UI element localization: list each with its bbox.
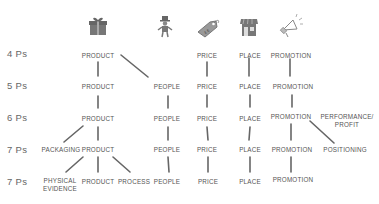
node-people: PEOPLE (154, 146, 180, 154)
node-promotion: PROMOTION (273, 176, 314, 184)
node-place: PLACE (239, 115, 261, 123)
row-label-4ps: 4 Ps (7, 48, 27, 59)
node-place: PLACE (239, 178, 261, 186)
node-product: PRODUCT (82, 115, 115, 123)
node-price: PRICE (197, 83, 217, 91)
node-price: PRICE (197, 115, 217, 123)
node-promotion: PROMOTION (273, 83, 314, 91)
node-product: PRODUCT (82, 52, 115, 60)
row-label-5ps: 5 Ps (7, 80, 27, 91)
node-price: PRICE (198, 178, 218, 186)
node-promotion: PROMOTION (271, 113, 312, 121)
node-price: PRICE (197, 146, 217, 154)
node-people: PEOPLE (154, 115, 180, 123)
node-place: PLACE (239, 52, 261, 60)
row-label-7ps-b: 7 Ps (7, 176, 27, 187)
node-physical-evidence: PHYSICAL EVIDENCE (43, 177, 77, 192)
node-process: PROCESS (118, 178, 150, 186)
gift-box-icon (88, 16, 108, 40)
node-physical-line1: PHYSICAL (43, 177, 77, 185)
node-packaging: PACKAGING (42, 146, 81, 154)
node-place: PLACE (239, 146, 261, 154)
megaphone-icon (279, 12, 305, 42)
node-performance-line1: PERFORMANCE/ (320, 113, 373, 121)
connector-lines (0, 0, 379, 204)
marketing-mix-diagram: £ € 4 Ps 5 Ps 6 Ps 7 Ps 7 Ps PRODUCT PRI… (0, 0, 379, 204)
node-product: PRODUCT (82, 83, 115, 91)
node-performance-line2: PROFIT (320, 121, 373, 129)
node-performance-profit: PERFORMANCE/ PROFIT (320, 113, 373, 128)
node-product: PRODUCT (82, 178, 115, 186)
node-people: PEOPLE (154, 83, 180, 91)
node-people: PEOPLE (154, 178, 180, 186)
node-physical-line2: EVIDENCE (43, 185, 77, 193)
row-label-6ps: 6 Ps (7, 112, 27, 123)
node-place: PLACE (239, 83, 261, 91)
node-product: PRODUCT (82, 146, 115, 154)
person-top-hat-icon (157, 16, 173, 42)
node-price: PRICE (197, 52, 217, 60)
node-promotion: PROMOTION (272, 146, 313, 154)
row-label-7ps-a: 7 Ps (7, 144, 27, 155)
node-promotion: PROMOTION (271, 52, 312, 60)
price-tag-icon: £ € (196, 18, 220, 42)
storefront-icon (239, 17, 259, 41)
node-positioning: POSITIONING (323, 146, 366, 154)
